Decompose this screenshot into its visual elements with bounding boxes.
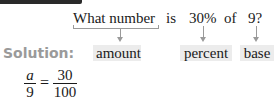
arrow-down-icon — [253, 37, 259, 42]
question-percent-value: 30% — [189, 10, 217, 26]
question-is: is — [166, 10, 176, 26]
right-denominator: 100 — [53, 84, 77, 100]
term-percent: percent — [180, 45, 232, 61]
equals-sign: = — [40, 74, 49, 92]
arrow-line-base — [256, 26, 257, 37]
question-of: of — [224, 10, 237, 26]
right-numerator: 30 — [53, 67, 77, 84]
fraction-right: 30 100 — [53, 67, 77, 100]
solution-label: Solution: — [3, 45, 74, 61]
arrow-down-icon — [117, 37, 123, 42]
arrow-line-percent — [203, 26, 204, 37]
top-bar-decoration — [0, 0, 82, 4]
term-amount: amount — [93, 45, 141, 61]
arrow-line-amount — [120, 28, 121, 37]
left-numerator: a — [24, 67, 36, 84]
arrow-down-icon — [200, 37, 206, 42]
question-what-number: What number — [73, 10, 155, 26]
bracket-what-number — [73, 25, 159, 29]
fraction-left: a 9 — [24, 67, 36, 100]
term-base: base — [240, 45, 274, 61]
left-denominator: 9 — [24, 84, 36, 100]
question-base-value: 9? — [248, 10, 262, 26]
